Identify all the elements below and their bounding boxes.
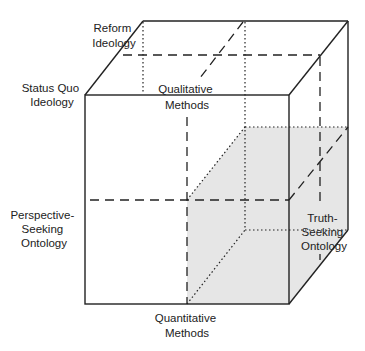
- label-status-quo-ideology: Status Quo Ideology: [22, 82, 83, 108]
- label-reform-ideology: Reform Ideology: [92, 22, 136, 49]
- label-truth-seeking-ontology: Truth- Seeking Ontology: [301, 212, 347, 252]
- label-qualitative-methods: Qualitative Methods: [158, 83, 216, 111]
- label-perspective-seeking-ontology: Perspective- Seeking Ontology: [10, 209, 77, 249]
- label-quantitative-methods: Quantitative Methods: [155, 312, 220, 339]
- cube-diagram: Reform Ideology Status Quo Ideology Qual…: [0, 0, 365, 351]
